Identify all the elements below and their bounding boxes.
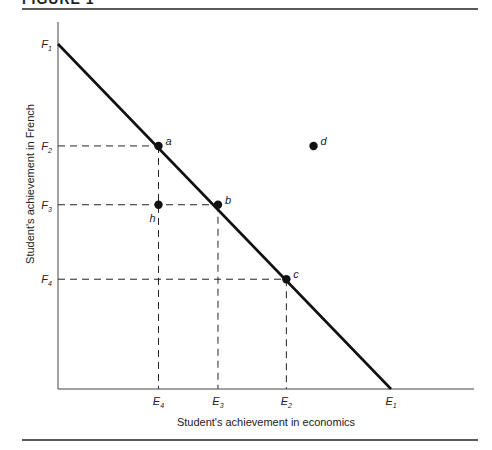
x-tick-label-E4: E4 (153, 395, 164, 409)
point-d (309, 142, 317, 150)
y-tick-label-F2: F2 (41, 140, 52, 154)
x-tick-label-E2: E2 (281, 395, 292, 409)
point-label-c: c (293, 268, 299, 280)
tick-labels: F1F2F3F4E4E3E2E1 (41, 38, 396, 409)
point-label-h: h (149, 212, 155, 224)
point-b (214, 201, 222, 209)
y-tick-label-F3: F3 (41, 199, 52, 213)
y-tick-label-F4: F4 (41, 273, 52, 287)
point-label-d: d (321, 135, 328, 147)
point-label-a: a (165, 135, 171, 147)
frontier-line (58, 44, 391, 389)
point-a (154, 142, 162, 150)
x-axis-title: Student's achievement in economics (177, 416, 356, 428)
guide-lines (58, 146, 286, 389)
x-tick-label-E3: E3 (212, 395, 223, 409)
point-label-b: b (225, 194, 231, 206)
x-tick-label-E1: E1 (385, 395, 396, 409)
y-axis-title: Student's achievement in French (24, 104, 36, 264)
diagram-canvas: F1F2F3F4E4E3E2E1 abcdh Student's achieve… (0, 0, 492, 450)
y-tick-label-F1: F1 (41, 38, 52, 52)
point-h (154, 201, 162, 209)
point-c (282, 275, 290, 283)
points: abcdh (149, 135, 327, 283)
